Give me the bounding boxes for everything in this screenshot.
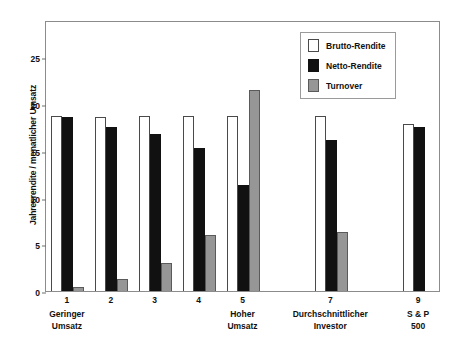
chart-legend: Brutto-RenditeNetto-RenditeTurnover — [300, 32, 396, 99]
bar-netto — [150, 134, 161, 291]
bar-netto — [106, 127, 117, 291]
legend-swatch-turnover — [308, 79, 319, 92]
bar-group — [222, 22, 266, 291]
bar-netto — [62, 117, 73, 291]
x-axis-tick-number: 9 — [363, 294, 460, 306]
legend-item: Brutto-Rendite — [308, 39, 386, 52]
bar-netto — [414, 127, 425, 291]
bar-group — [90, 22, 134, 291]
bar-group — [134, 22, 178, 291]
bar-turnover — [249, 90, 260, 291]
legend-label: Brutto-Rendite — [326, 41, 386, 51]
bar-brutto — [183, 116, 194, 291]
bar-group — [178, 22, 222, 291]
bar-chart: Jahresrendite / monatlicher Umsatz 05101… — [0, 0, 460, 350]
legend-swatch-netto — [308, 59, 319, 72]
bar-brutto — [227, 116, 238, 291]
bar-netto — [194, 148, 205, 291]
bar-turnover — [205, 235, 216, 291]
bar-group — [397, 22, 441, 291]
bar-turnover — [161, 263, 172, 291]
bar-netto — [238, 185, 249, 291]
x-axis-labels: 1Geringer Umsatz2345Hoher Umsatz7Durchsc… — [45, 294, 440, 350]
bar-turnover — [73, 287, 84, 291]
bar-brutto — [315, 116, 326, 291]
legend-label: Turnover — [326, 81, 362, 91]
bar-turnover — [337, 232, 348, 291]
x-axis-group-label: 9S & P 500 — [363, 294, 460, 332]
x-axis-category-caption: S & P 500 — [363, 309, 460, 332]
bar-brutto — [95, 117, 106, 291]
bar-brutto — [403, 124, 414, 291]
bar-brutto — [51, 116, 62, 291]
legend-swatch-brutto — [308, 39, 319, 52]
bar-group — [46, 22, 90, 291]
legend-item: Turnover — [308, 79, 386, 92]
legend-item: Netto-Rendite — [308, 59, 386, 72]
bar-brutto — [139, 116, 150, 291]
bar-netto — [326, 140, 337, 291]
bar-turnover — [117, 279, 128, 291]
x-axis-category-caption: Geringer Umsatz — [12, 309, 122, 332]
legend-label: Netto-Rendite — [326, 61, 382, 71]
